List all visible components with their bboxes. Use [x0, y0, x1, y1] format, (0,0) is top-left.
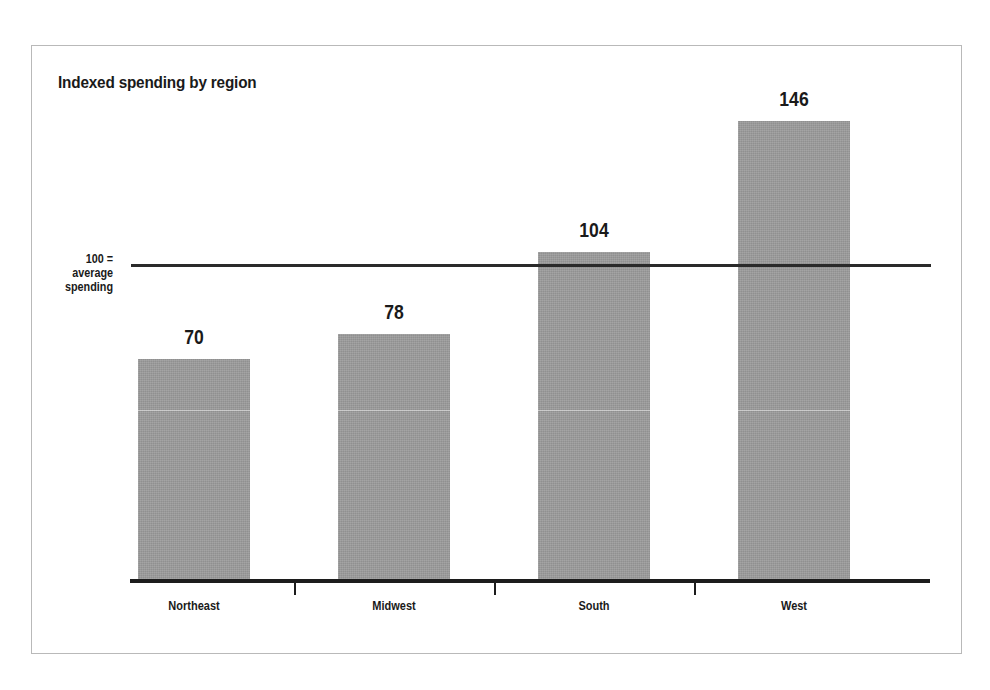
bar-west: [738, 121, 850, 579]
bar-value-label-midwest: 78: [345, 301, 444, 324]
category-label-northeast: Northeast: [145, 599, 244, 613]
bar-value-label-west: 146: [745, 88, 844, 111]
plot-area: Indexed spending by region 70Northeast78…: [32, 46, 961, 653]
bar-south: [538, 252, 650, 579]
bars-layer: 70Northeast78Midwest104South146West: [32, 46, 961, 653]
bar-value-label-northeast: 70: [145, 326, 244, 349]
category-tick-3: [694, 582, 696, 595]
category-tick-1: [294, 582, 296, 595]
reference-line-100: [131, 264, 931, 267]
scan-artifact-line: [32, 410, 961, 411]
bar-northeast: [138, 359, 250, 579]
bar-midwest: [338, 334, 450, 579]
bar-value-label-south: 104: [545, 219, 644, 242]
category-label-south: South: [545, 599, 644, 613]
chart-frame: Indexed spending by region 70Northeast78…: [31, 45, 962, 654]
category-tick-2: [494, 582, 496, 595]
category-label-midwest: Midwest: [345, 599, 444, 613]
category-label-west: West: [745, 599, 844, 613]
